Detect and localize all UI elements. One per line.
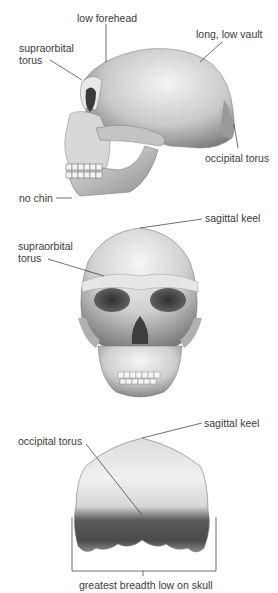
skull-lateral-view (65, 49, 235, 196)
label-line-2: torus (18, 252, 73, 264)
label-line-2: torus (19, 54, 74, 66)
frontal-right-orbit (150, 288, 186, 312)
label-sagittal-keel-frontal: sagittal keel (205, 212, 260, 224)
label-low-forehead: low forehead (77, 12, 137, 24)
label-occipital-torus-posterior: occipital torus (18, 435, 82, 447)
label-no-chin: no chin (19, 192, 53, 204)
skull-illustrations (0, 0, 278, 593)
frontal-left-orbit (94, 288, 130, 312)
label-sagittal-keel-posterior: sagittal keel (204, 417, 259, 429)
label-occipital-torus-lateral: occipital torus (205, 152, 269, 164)
frontal-mandible (98, 346, 182, 397)
frontal-teeth (118, 372, 160, 384)
skull-frontal-view (78, 228, 202, 397)
label-line-1: supraorbital (19, 42, 74, 54)
label-greatest-breadth: greatest breadth low on skull (79, 579, 213, 591)
label-supraorbital-torus-frontal: supraorbital torus (18, 240, 73, 264)
label-long-low-vault: long, low vault (196, 28, 263, 40)
label-line-1: supraorbital (18, 240, 73, 252)
label-supraorbital-torus-lateral: supraorbital torus (19, 42, 74, 66)
